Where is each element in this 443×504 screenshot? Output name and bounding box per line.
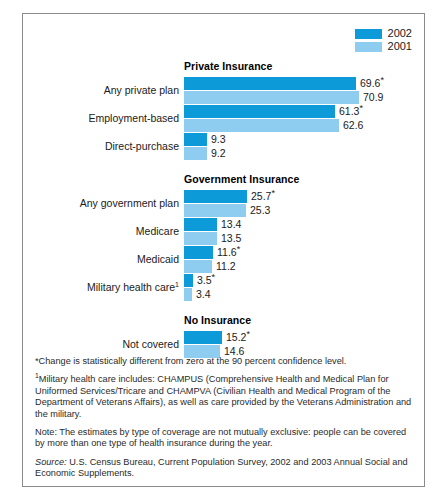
bar-2002 bbox=[184, 105, 335, 118]
figure-frame: 2002 2001 Private InsuranceAny private p… bbox=[22, 13, 425, 487]
significance-asterisk: * bbox=[380, 75, 384, 85]
note-source: Source: U.S. Census Bureau, Current Popu… bbox=[35, 457, 413, 480]
bar-category-label: Any government plan bbox=[23, 198, 179, 209]
bar-group-row: Any private plan69.6*70.9 bbox=[23, 77, 424, 105]
bar-value-label: 11.2 bbox=[212, 261, 236, 272]
bar-2002 bbox=[184, 331, 222, 344]
bar-value-label: 70.9 bbox=[359, 92, 383, 103]
bar-category-label: Medicaid bbox=[23, 254, 179, 265]
bar-2002 bbox=[184, 77, 356, 90]
bar-2002 bbox=[184, 218, 217, 231]
bar-category-label: Not covered bbox=[23, 339, 179, 350]
bar-2002 bbox=[184, 246, 213, 259]
group-title: No Insurance bbox=[184, 314, 251, 326]
bar-chart-plot: Private InsuranceAny private plan69.6*70… bbox=[23, 60, 424, 348]
bar-value-label: 62.6 bbox=[339, 120, 363, 131]
bar-value-label: 9.3 bbox=[207, 134, 226, 145]
bar-group-row: Medicaid11.6*11.2 bbox=[23, 246, 424, 274]
significance-asterisk: * bbox=[212, 272, 216, 282]
bar-2001 bbox=[184, 147, 207, 160]
significance-asterisk: * bbox=[359, 103, 363, 113]
bar-category-label: Any private plan bbox=[23, 85, 179, 96]
bar-value-label: 13.5 bbox=[217, 233, 241, 244]
bar-value-label: 25.7* bbox=[247, 191, 275, 202]
note-general: Note: The estimates by type of coverage … bbox=[35, 427, 413, 450]
bar-value-label: 13.4 bbox=[217, 219, 241, 230]
bar-2001 bbox=[184, 260, 212, 273]
bar-category-label: Employment-based bbox=[23, 113, 179, 124]
bar-2001 bbox=[184, 119, 339, 132]
bar-group-row: Not covered15.2*14.6 bbox=[23, 331, 424, 359]
note-footnote-1: 1Military health care includes: CHAMPUS … bbox=[35, 374, 413, 420]
bar-2001 bbox=[184, 288, 192, 301]
bar-value-label: 9.2 bbox=[207, 148, 226, 159]
group-title: Government Insurance bbox=[184, 173, 299, 185]
source-text: U.S. Census Bureau, Current Population S… bbox=[35, 457, 408, 478]
bar-group-row: Employment-based61.3*62.6 bbox=[23, 105, 424, 133]
legend-swatch-2001 bbox=[355, 42, 382, 52]
significance-asterisk: * bbox=[246, 329, 250, 339]
bar-2002 bbox=[184, 274, 193, 287]
bar-2001 bbox=[184, 91, 359, 104]
footnote-1-text: Military health care includes: CHAMPUS (… bbox=[35, 374, 411, 418]
category-footnote-marker: 1 bbox=[175, 281, 179, 288]
legend-item-2001: 2001 bbox=[355, 41, 412, 52]
group-title: Private Insurance bbox=[184, 60, 272, 72]
bar-value-label: 3.4 bbox=[192, 289, 211, 300]
significance-asterisk: * bbox=[271, 188, 275, 198]
bar-value-label: 61.3* bbox=[335, 106, 363, 117]
bar-group-row: Direct-purchase9.39.2 bbox=[23, 133, 424, 161]
bar-category-label: Medicare bbox=[23, 226, 179, 237]
bar-category-label: Direct-purchase bbox=[23, 141, 179, 152]
bar-group-row: Any government plan25.7*25.3 bbox=[23, 190, 424, 218]
bar-value-label: 11.6* bbox=[213, 247, 240, 258]
bar-2002 bbox=[184, 133, 207, 146]
significance-asterisk: * bbox=[237, 244, 241, 254]
chart-legend: 2002 2001 bbox=[355, 28, 412, 52]
bar-2002 bbox=[184, 190, 247, 203]
bar-value-label: 3.5* bbox=[193, 275, 215, 286]
figure-notes: *Change is statistically different from … bbox=[35, 356, 413, 487]
legend-label-2002: 2002 bbox=[388, 28, 412, 39]
source-label: Source: bbox=[35, 457, 67, 467]
bar-category-label: Military health care1 bbox=[23, 282, 179, 293]
bar-2001 bbox=[184, 232, 217, 245]
legend-item-2002: 2002 bbox=[355, 28, 412, 39]
bar-2001 bbox=[184, 204, 246, 217]
bar-value-label: 69.6* bbox=[356, 78, 384, 89]
legend-swatch-2002 bbox=[355, 29, 382, 39]
bar-value-label: 15.2* bbox=[222, 332, 250, 343]
note-asterisk: *Change is statistically different from … bbox=[35, 356, 413, 367]
bar-group-row: Medicare13.413.5 bbox=[23, 218, 424, 246]
bar-group-row: Military health care13.5*3.4 bbox=[23, 274, 424, 302]
legend-label-2001: 2001 bbox=[388, 41, 412, 52]
bar-value-label: 25.3 bbox=[246, 205, 270, 216]
